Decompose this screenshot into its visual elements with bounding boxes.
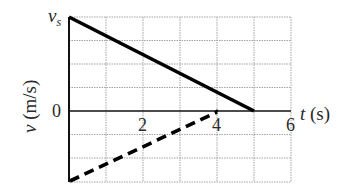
y-axis-label: v (m/s) <box>19 80 41 133</box>
x-tick-4: 4 <box>212 115 221 135</box>
x-tick-6: 6 <box>286 115 295 135</box>
x-tick-2: 2 <box>138 115 147 135</box>
x-axis-label: t (s) <box>300 103 330 125</box>
zero-label: 0 <box>52 101 61 121</box>
vs-label: vs <box>48 5 61 29</box>
grid <box>69 17 291 182</box>
velocity-time-graph: vs 0 2 4 6 t (s) v (m/s) <box>0 0 350 195</box>
